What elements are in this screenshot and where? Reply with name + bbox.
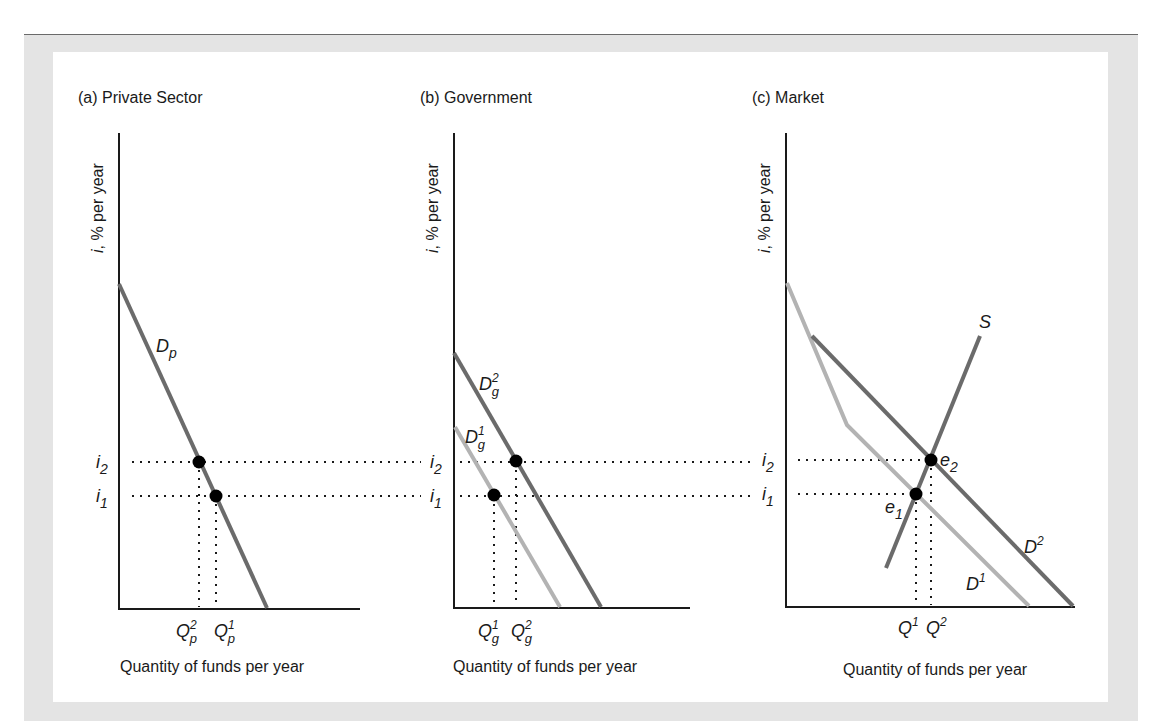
panel-c-demand-1-label: D1: [966, 571, 986, 594]
panel-c-e1-label: e1: [885, 497, 903, 522]
panel-a-q1-label: Q1p: [214, 618, 235, 646]
panel-c-supply-label: S: [979, 312, 991, 332]
panel-a-point-i2: [193, 456, 206, 469]
panel-c-equilibrium-e1: [910, 488, 923, 501]
panel-a-i1-label: i1: [96, 486, 108, 511]
panel-a-demand-curve: [119, 284, 267, 608]
panel-c-q2-label: Q2: [926, 615, 947, 638]
panel-private-sector: (a) Private Sector i, % per year i2 i1 D…: [78, 89, 421, 675]
panel-b-demand-2-label: D2g: [479, 371, 500, 399]
panel-a-i2-label: i2: [96, 452, 108, 477]
panel-b-demand-1-curve: [455, 427, 560, 607]
panel-c-x-axis-label: Quantity of funds per year: [843, 661, 1028, 678]
panel-b-y-axis-label: i, % per year: [424, 163, 441, 253]
panel-b-point-i2: [510, 455, 523, 468]
panel-c-supply-curve: [886, 336, 980, 568]
panel-c-i1-label: i1: [762, 484, 774, 509]
panel-c-title: (c) Market: [752, 89, 825, 106]
panel-b-i2-label: i2: [430, 452, 442, 477]
panel-c-demand-2-curve: [812, 336, 1073, 606]
panel-b-x-axis-label: Quantity of funds per year: [453, 658, 638, 675]
panel-b-demand-2-curve: [454, 353, 601, 607]
panel-a-point-i1: [210, 490, 223, 503]
panel-a-x-axis-label: Quantity of funds per year: [120, 658, 305, 675]
panel-a-curve-label: Dp: [156, 336, 177, 361]
panel-a-y-axis-label: i, % per year: [89, 163, 106, 253]
panel-government: (b) Government i, % per year i2 i1 D2g D…: [420, 89, 753, 675]
panel-c-i2-label: i2: [762, 450, 774, 475]
panel-market: (c) Market i, % per year i2 i1 S e2 e1 D…: [752, 89, 1075, 678]
panel-c-y-axis-label: i, % per year: [756, 163, 773, 253]
panel-b-q2-label: Q2g: [511, 618, 533, 646]
panel-b-point-i1: [488, 489, 501, 502]
panel-c-q1-label: Q1: [898, 615, 919, 638]
panel-b-title: (b) Government: [420, 89, 533, 106]
panel-b-i1-label: i1: [430, 486, 442, 511]
panel-b-q1-label: Q1g: [478, 618, 500, 646]
panel-c-demand-2-label: D2: [1024, 534, 1044, 557]
panel-c-demand-1-curve: [787, 283, 1029, 606]
panel-a-title: (a) Private Sector: [78, 89, 203, 106]
panel-c-equilibrium-e2: [925, 454, 938, 467]
panel-a-q2-label: Q2p: [176, 618, 197, 646]
